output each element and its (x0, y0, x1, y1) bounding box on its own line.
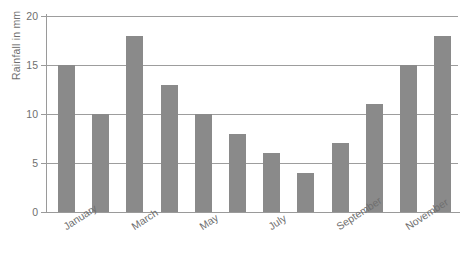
y-axis-tick-label: 20 (16, 11, 38, 22)
y-axis-tick-mark (41, 16, 46, 17)
x-axis-tick-label: May (197, 211, 220, 232)
bar (92, 114, 109, 212)
y-axis-tick-labels: 05101520 (8, 0, 38, 277)
x-axis-tick-labels: JanuaryMarchMayJulySeptemberNovember (46, 216, 473, 277)
y-axis-tick-label: 0 (16, 207, 38, 218)
y-axis-tick-label: 10 (16, 109, 38, 120)
x-axis-line (46, 212, 460, 213)
y-axis-tick-mark (41, 114, 46, 115)
bar (58, 65, 75, 212)
bar (332, 143, 349, 212)
bar (161, 85, 178, 212)
bar (297, 173, 314, 212)
bar (126, 36, 143, 212)
x-axis-tick-label: July (266, 212, 288, 232)
rainfall-bar-chart: Rainfall in mm 05101520 JanuaryMarchMayJ… (0, 0, 473, 277)
bar (263, 153, 280, 212)
y-axis-tick-label: 15 (16, 60, 38, 71)
y-axis-tick-mark (41, 212, 46, 213)
bar (434, 36, 451, 212)
y-axis-tick-mark (41, 163, 46, 164)
bar (195, 114, 212, 212)
bar (229, 134, 246, 212)
y-axis-tick-mark (41, 65, 46, 66)
bar (400, 65, 417, 212)
y-axis-tick-label: 5 (16, 158, 38, 169)
bars-layer (46, 16, 458, 212)
